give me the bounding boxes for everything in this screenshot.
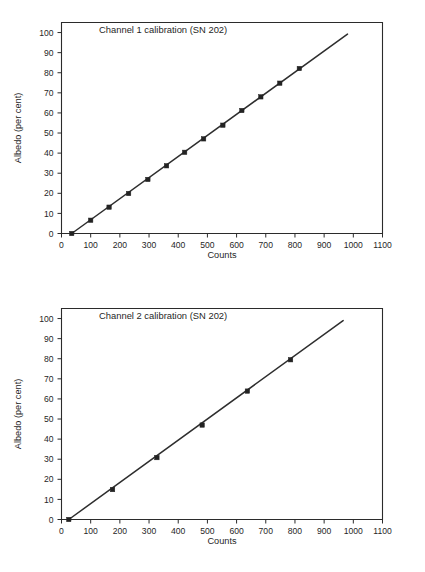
y-tick-label: 20 bbox=[44, 474, 54, 484]
data-point-marker bbox=[221, 123, 225, 127]
data-point-marker bbox=[182, 150, 186, 154]
plot-frame-2 bbox=[62, 309, 383, 520]
x-tick-label: 600 bbox=[229, 240, 244, 250]
y-ticks-2: 0102030405060708090100 bbox=[39, 314, 61, 525]
y-axis-title-1: Albedo (per cent) bbox=[13, 93, 23, 163]
x-tick-label: 300 bbox=[142, 526, 157, 536]
x-tick-label: 500 bbox=[200, 526, 215, 536]
x-tick-label: 400 bbox=[171, 526, 186, 536]
x-tick-label: 1000 bbox=[344, 240, 363, 250]
calibration-figure-channel-2: 0102030405060708090100 01002003004005006… bbox=[0, 286, 425, 572]
x-tick-label: 800 bbox=[288, 526, 303, 536]
x-axis-title-1: Counts bbox=[207, 250, 237, 260]
data-point-marker bbox=[240, 108, 244, 112]
y-ticks-1: 0102030405060708090100 bbox=[39, 28, 61, 239]
axis-frame-1 bbox=[62, 23, 383, 234]
x-tick-label: 200 bbox=[113, 240, 128, 250]
x-tick-label: 700 bbox=[259, 526, 274, 536]
calibration-figure-channel-1: 0102030405060708090100 01002003004005006… bbox=[0, 0, 425, 286]
x-ticks-1: 010020030040050060070080090010001100 bbox=[59, 234, 392, 251]
x-tick-label: 0 bbox=[59, 240, 64, 250]
x-tick-label: 1000 bbox=[344, 526, 363, 536]
y-tick-label: 10 bbox=[44, 495, 54, 505]
x-tick-label: 500 bbox=[200, 240, 215, 250]
y-tick-label: 100 bbox=[39, 314, 54, 324]
chart-canvas-channel-1: 0102030405060708090100 01002003004005006… bbox=[0, 0, 425, 286]
x-tick-label: 1100 bbox=[373, 526, 392, 536]
y-tick-label: 80 bbox=[44, 68, 54, 78]
data-point-marker bbox=[110, 487, 114, 491]
x-tick-label: 400 bbox=[171, 240, 186, 250]
y-tick-label: 50 bbox=[44, 414, 54, 424]
x-axis-title-2: Counts bbox=[207, 536, 237, 546]
x-tick-label: 0 bbox=[59, 526, 64, 536]
y-tick-label: 40 bbox=[44, 148, 54, 158]
plot-title-2: Channel 2 calibration (SN 202) bbox=[99, 310, 227, 321]
data-point-marker bbox=[155, 455, 159, 459]
data-point-marker bbox=[245, 389, 249, 393]
y-tick-label: 40 bbox=[44, 434, 54, 444]
y-tick-label: 20 bbox=[44, 188, 54, 198]
x-tick-label: 100 bbox=[84, 240, 99, 250]
y-tick-label: 50 bbox=[44, 128, 54, 138]
data-point-marker bbox=[107, 205, 111, 209]
x-ticks-2: 010020030040050060070080090010001100 bbox=[59, 520, 392, 537]
y-tick-label: 80 bbox=[44, 354, 54, 364]
figure-page: 0102030405060708090100 01002003004005006… bbox=[0, 0, 425, 572]
x-tick-label: 600 bbox=[229, 526, 244, 536]
data-layer-1 bbox=[70, 34, 348, 236]
data-point-marker bbox=[297, 66, 301, 70]
y-tick-label: 10 bbox=[44, 209, 54, 219]
plot-frame-1 bbox=[62, 23, 383, 234]
y-tick-label: 90 bbox=[44, 48, 54, 58]
regression-line-1 bbox=[72, 34, 348, 233]
data-point-marker bbox=[164, 164, 168, 168]
y-tick-label: 100 bbox=[39, 28, 54, 38]
data-point-marker bbox=[288, 358, 292, 362]
plot-title-1: Channel 1 calibration (SN 202) bbox=[99, 24, 227, 35]
data-layer-2 bbox=[67, 321, 344, 522]
regression-line-2 bbox=[69, 321, 343, 520]
data-point-marker bbox=[200, 423, 204, 427]
data-point-marker bbox=[67, 517, 71, 521]
axis-frame-2 bbox=[62, 309, 383, 520]
x-tick-label: 800 bbox=[288, 240, 303, 250]
data-point-marker bbox=[70, 231, 74, 235]
data-point-marker bbox=[259, 95, 263, 99]
x-tick-label: 1100 bbox=[373, 240, 392, 250]
x-tick-label: 900 bbox=[317, 526, 332, 536]
x-tick-label: 300 bbox=[142, 240, 157, 250]
x-tick-label: 900 bbox=[317, 240, 332, 250]
data-point-marker bbox=[88, 218, 92, 222]
data-point-marker bbox=[126, 191, 130, 195]
y-tick-label: 0 bbox=[49, 229, 54, 239]
data-point-marker bbox=[201, 137, 205, 141]
y-tick-label: 30 bbox=[44, 168, 54, 178]
data-point-marker bbox=[278, 81, 282, 85]
x-tick-label: 700 bbox=[259, 240, 274, 250]
y-axis-title-2: Albedo (per cent) bbox=[13, 379, 23, 449]
y-tick-label: 0 bbox=[49, 515, 54, 525]
data-point-marker bbox=[146, 177, 150, 181]
y-tick-label: 60 bbox=[44, 394, 54, 404]
x-tick-label: 200 bbox=[113, 526, 128, 536]
y-tick-label: 70 bbox=[44, 374, 54, 384]
y-tick-label: 60 bbox=[44, 108, 54, 118]
y-tick-label: 70 bbox=[44, 88, 54, 98]
chart-canvas-channel-2: 0102030405060708090100 01002003004005006… bbox=[0, 286, 425, 572]
y-tick-label: 30 bbox=[44, 454, 54, 464]
x-tick-label: 100 bbox=[84, 526, 99, 536]
y-tick-label: 90 bbox=[44, 334, 54, 344]
